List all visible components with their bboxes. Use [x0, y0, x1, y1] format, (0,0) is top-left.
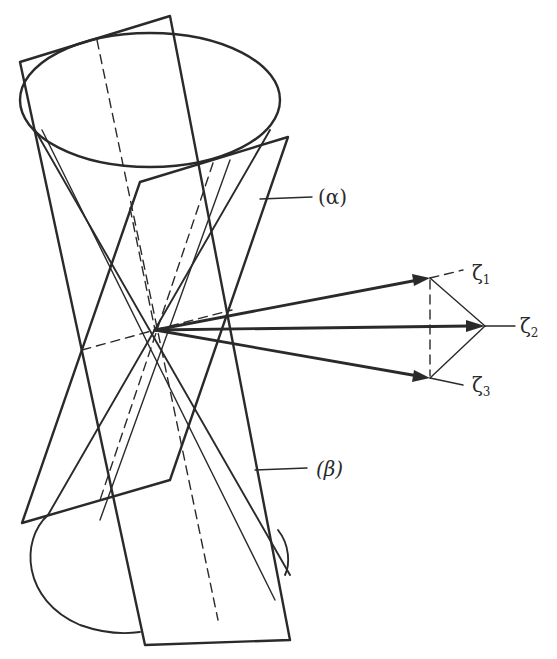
arrowhead-zeta1 [412, 274, 430, 286]
cone-planes-diagram: (α) (β) ζ1 ζ2 ζ3 [0, 0, 557, 659]
arrowhead-zeta2 [466, 320, 485, 332]
label-alpha: (α) [318, 185, 347, 209]
vector-zeta2 [155, 326, 470, 330]
hidden-generator-2 [130, 208, 155, 330]
zeta3-extension [430, 378, 463, 385]
vector-zeta3 [155, 330, 418, 376]
beta-leader-line [255, 468, 307, 470]
tip-link-1-2 [430, 278, 485, 326]
label-beta: (β) [316, 457, 343, 481]
zeta1-extension [430, 270, 463, 278]
cone-bottom-arc [30, 515, 140, 633]
label-zeta1: ζ1 [472, 261, 490, 287]
label-zeta3: ζ3 [472, 373, 490, 399]
label-zeta2: ζ2 [520, 314, 538, 340]
tip-link-3-2 [430, 326, 485, 378]
cone-top-ellipse [20, 33, 280, 167]
vector-zeta1 [155, 280, 418, 330]
arrowhead-zeta3 [412, 370, 430, 382]
